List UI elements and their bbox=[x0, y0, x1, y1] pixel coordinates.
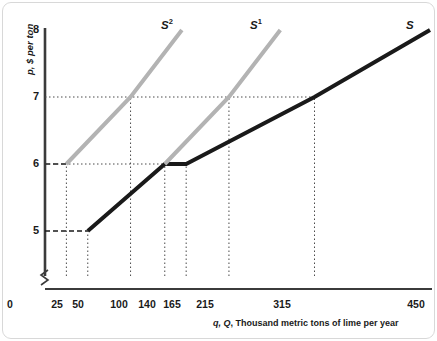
curve-label-s2: S2 bbox=[161, 17, 173, 31]
curve-label-s: S bbox=[406, 19, 414, 31]
x-tick-450: 450 bbox=[403, 298, 429, 310]
curves-group bbox=[66, 30, 430, 231]
x-axis-title-vars: q, Q bbox=[213, 318, 231, 328]
x-tick-100: 100 bbox=[107, 298, 131, 310]
y-tick-5: 5 bbox=[33, 224, 39, 236]
x-tick-165: 165 bbox=[160, 298, 184, 310]
y-axis-title: p, $ per ton bbox=[24, 24, 35, 75]
curve-label-s-base: S bbox=[406, 19, 414, 31]
x-tick-140: 140 bbox=[135, 298, 159, 310]
x-tick-215: 215 bbox=[193, 298, 217, 310]
chart-card: 8 7 6 5 p, $ per ton 0 25 50 100 140 165… bbox=[0, 0, 437, 341]
x-tick-315: 315 bbox=[270, 298, 294, 310]
curve-label-s1-base: S bbox=[250, 19, 258, 31]
y-tick-7: 7 bbox=[33, 90, 39, 102]
curve-label-s1-sup: 1 bbox=[258, 17, 262, 26]
x-axis-title: q, Q, Thousand metric tons of lime per y… bbox=[213, 318, 399, 328]
x-tick-0: 0 bbox=[0, 298, 20, 310]
x-tick-50: 50 bbox=[68, 298, 88, 310]
x-tick-25: 25 bbox=[47, 298, 67, 310]
y-tick-6: 6 bbox=[33, 157, 39, 169]
curve-label-s2-sup: 2 bbox=[169, 17, 173, 26]
curve-label-s1: S1 bbox=[250, 17, 262, 31]
y-axis-break-icon bbox=[41, 270, 48, 285]
guide-lines-group bbox=[45, 97, 315, 276]
curve-label-s2-base: S bbox=[161, 19, 169, 31]
x-axis-title-text: , Thousand metric tons of lime per year bbox=[231, 318, 399, 328]
supply-curve-chart bbox=[0, 0, 437, 341]
curve-s2 bbox=[66, 30, 182, 164]
